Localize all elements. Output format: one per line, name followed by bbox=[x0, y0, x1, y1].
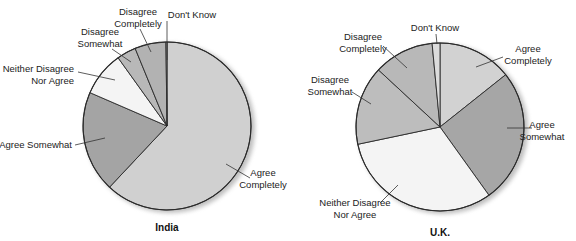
chart-canvas: AgreeCompletelyAgree SomewhatNeither Dis… bbox=[0, 0, 576, 241]
pie-chart-figure: AgreeCompletelyAgree SomewhatNeither Dis… bbox=[0, 0, 576, 241]
slice-label-don-t-know: Don't Know bbox=[411, 22, 459, 33]
chart-title-uk: U.K. bbox=[430, 227, 450, 238]
pie-uk: AgreeCompletelyAgreeSomewhatNeither Disa… bbox=[308, 22, 565, 220]
slice-label-neither-disagree-nor-agree: Neither DisagreeNor Agree bbox=[3, 63, 74, 86]
slice-label-disagree-completely: DisagreeCompletely bbox=[114, 6, 162, 29]
slice-label-agree-completely: AgreeCompletely bbox=[504, 43, 552, 66]
slice-label-neither-disagree-nor-agree: Neither DisagreeNor Agree bbox=[319, 197, 390, 220]
pie-india: AgreeCompletelyAgree SomewhatNeither Dis… bbox=[0, 6, 287, 213]
slice-label-don-t-know: Don't Know bbox=[168, 9, 216, 20]
slice-label-disagree-somewhat: DisagreeSomewhat bbox=[78, 26, 123, 49]
slice-label-agree-somewhat: Agree Somewhat bbox=[0, 139, 72, 150]
slice-label-disagree-completely: DisagreeCompletely bbox=[339, 31, 387, 54]
slice-label-agree-completely: AgreeCompletely bbox=[239, 167, 287, 190]
chart-title-india: India bbox=[155, 222, 179, 233]
leader-line bbox=[436, 34, 437, 44]
slice-label-disagree-somewhat: DisagreeSomewhat bbox=[308, 74, 353, 97]
